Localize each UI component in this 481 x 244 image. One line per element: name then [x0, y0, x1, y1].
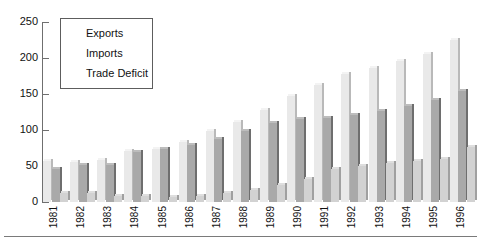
- legend-swatch-exports: [70, 28, 80, 38]
- y-tick-label: 0: [4, 196, 38, 207]
- bar-group: [423, 22, 450, 202]
- bar-trade-deficit: [277, 185, 285, 202]
- bar-group: [369, 22, 396, 202]
- bar-trade-deficit: [467, 147, 475, 202]
- bar-group: [396, 22, 423, 202]
- x-tick-label: 1989: [265, 206, 276, 228]
- bar-trade-deficit: [413, 161, 421, 202]
- x-tick-label: 1991: [319, 206, 330, 228]
- bar-trade-deficit: [141, 196, 149, 202]
- bar-trade-deficit: [169, 197, 177, 202]
- x-tick-label: 1996: [455, 206, 466, 228]
- x-tick-label: 1995: [428, 206, 439, 228]
- bar-exports: [179, 142, 187, 202]
- bar-exports: [287, 96, 295, 202]
- bar-trade-deficit: [60, 193, 68, 202]
- bar-exports: [396, 61, 404, 202]
- bar-group: [341, 22, 368, 202]
- bar-trade-deficit: [196, 196, 204, 202]
- bar-exports: [341, 74, 349, 202]
- bar-imports: [133, 152, 141, 202]
- bar-exports: [97, 160, 105, 202]
- bar-exports: [43, 161, 51, 202]
- legend-label-imports: Imports: [86, 48, 123, 59]
- y-tick-label: 100: [4, 124, 38, 135]
- bar-exports: [124, 151, 132, 202]
- x-tick-label: 1981: [48, 206, 59, 228]
- x-tick-label: 1986: [184, 206, 195, 228]
- legend-item-trade-deficit: Trade Deficit: [70, 66, 148, 80]
- bar-exports: [70, 162, 78, 202]
- bar-exports: [314, 85, 322, 202]
- x-tick-label: 1987: [211, 206, 222, 228]
- bar-exports: [206, 131, 214, 202]
- legend-label-trade-deficit: Trade Deficit: [86, 68, 148, 79]
- bar-group: [314, 22, 341, 202]
- legend-swatch-trade-deficit: [70, 68, 80, 78]
- bar-imports: [350, 115, 358, 202]
- bar-imports: [431, 100, 439, 202]
- bar-imports: [323, 118, 331, 202]
- bar-imports: [404, 106, 412, 202]
- x-tick-label: 1985: [157, 206, 168, 228]
- y-tick-label: 150: [4, 88, 38, 99]
- y-tick: [43, 202, 49, 203]
- bar-imports: [106, 165, 114, 202]
- legend-item-exports: Exports: [70, 26, 123, 40]
- bar-group: [287, 22, 314, 202]
- legend-label-exports: Exports: [86, 28, 123, 39]
- bar-trade-deficit: [87, 193, 95, 202]
- bar-trade-deficit: [358, 166, 366, 202]
- bar-imports: [52, 169, 60, 202]
- bar-group: [450, 22, 477, 202]
- bar-exports: [152, 149, 160, 202]
- bar-imports: [160, 149, 168, 202]
- bar-imports: [269, 123, 277, 202]
- x-tick-label: 1982: [75, 206, 86, 228]
- footer-rule: [4, 236, 477, 237]
- bar-group: [206, 22, 233, 202]
- bar-trade-deficit: [331, 169, 339, 202]
- bar-imports: [241, 131, 249, 202]
- bar-group: [179, 22, 206, 202]
- bar-group: [152, 22, 179, 202]
- x-tick-label: 1984: [129, 206, 140, 228]
- bar-trade-deficit: [440, 159, 448, 202]
- bar-trade-deficit: [386, 163, 394, 202]
- x-tick-label: 1988: [238, 206, 249, 228]
- x-tick-label: 1994: [401, 206, 412, 228]
- bar-trade-deficit: [114, 196, 122, 202]
- bar-trade-deficit: [304, 179, 312, 202]
- bar-imports: [79, 165, 87, 202]
- bar-trade-deficit: [223, 193, 231, 202]
- bar-exports: [450, 40, 458, 202]
- y-tick-label: 50: [4, 160, 38, 171]
- x-tick-label: 1993: [374, 206, 385, 228]
- bar-group: [233, 22, 260, 202]
- x-tick-label: 1983: [102, 206, 113, 228]
- legend-item-imports: Imports: [70, 46, 123, 60]
- bar-imports: [214, 139, 222, 202]
- bar-imports: [458, 91, 466, 202]
- bar-exports: [260, 110, 268, 202]
- bar-trade-deficit: [250, 190, 258, 202]
- bar-exports: [423, 54, 431, 202]
- bar-chart: 250200150100500 198119821983198419851986…: [0, 0, 481, 244]
- chart-legend: Exports Imports Trade Deficit: [60, 18, 153, 89]
- bar-imports: [187, 145, 195, 202]
- bar-imports: [296, 119, 304, 202]
- x-tick-label: 1992: [346, 206, 357, 228]
- bar-group: [260, 22, 287, 202]
- bar-exports: [233, 122, 241, 202]
- bar-imports: [377, 111, 385, 202]
- bar-exports: [369, 68, 377, 202]
- y-tick-label: 200: [4, 52, 38, 63]
- x-tick-label: 1990: [292, 206, 303, 228]
- y-tick-label: 250: [4, 16, 38, 27]
- legend-swatch-imports: [70, 48, 80, 58]
